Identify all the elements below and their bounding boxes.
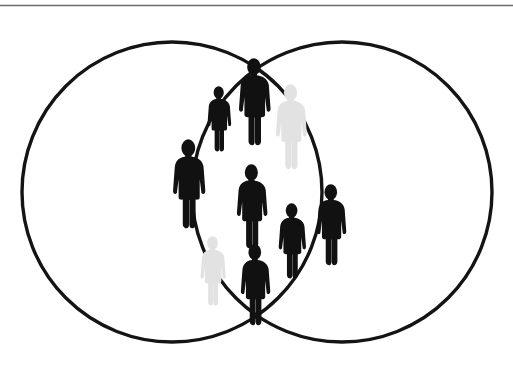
person-silhouette-icon bbox=[276, 84, 307, 169]
person-gray-lower-left bbox=[201, 236, 226, 305]
person-center-middle bbox=[237, 164, 267, 248]
venn-diagram-svg bbox=[0, 0, 513, 385]
person-gray-upper-right bbox=[276, 84, 307, 169]
person-silhouette-icon bbox=[239, 58, 271, 145]
people-layer bbox=[173, 58, 346, 325]
person-tall-top-center bbox=[239, 58, 271, 145]
person-left-middle bbox=[173, 139, 205, 228]
venn-diagram-canvas bbox=[0, 0, 513, 385]
person-silhouette-icon bbox=[201, 236, 226, 305]
person-silhouette-icon bbox=[237, 164, 267, 248]
venn-circle-right bbox=[192, 42, 492, 342]
person-silhouette-icon bbox=[173, 139, 205, 228]
venn-circle-left bbox=[22, 42, 322, 342]
